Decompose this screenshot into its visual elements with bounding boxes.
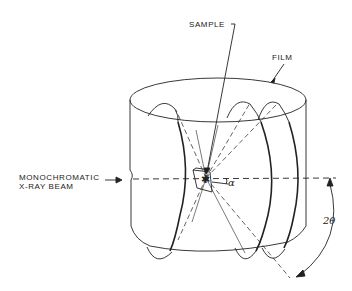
sample-label: SAMPLE <box>189 20 225 29</box>
diffraction-ring-right-bottom <box>262 248 285 258</box>
film-label: FILM <box>272 53 293 62</box>
film-right-side <box>288 100 306 242</box>
film-leader-line <box>273 64 284 80</box>
beam-label-line2: X-RAY BEAM <box>19 182 74 191</box>
two-theta-label: 2θ <box>323 215 335 226</box>
film-arrowhead <box>271 78 275 83</box>
diffraction-diagram: ✱ <box>0 0 352 291</box>
diffraction-ring-mid <box>256 122 272 251</box>
alpha-label: α <box>228 177 235 188</box>
film-left-side <box>130 100 150 246</box>
two-theta-arrowhead-bottom <box>296 270 305 277</box>
alpha-arc <box>226 178 227 184</box>
beam-label-line1: MONOCHROMATIC <box>19 173 100 182</box>
sample-star-icon: ✱ <box>201 173 210 185</box>
two-theta-arc <box>300 184 334 275</box>
beam-arrowhead <box>116 177 122 183</box>
alpha-tilt-line <box>212 182 228 184</box>
diffraction-ring-mid-top <box>227 102 261 122</box>
diffraction-cone-rays <box>176 103 290 278</box>
sample-leader-line <box>207 24 235 172</box>
diffraction-ring-right <box>284 122 298 248</box>
diffraction-ring-left <box>170 122 186 251</box>
two-theta-arrowhead-top <box>327 178 333 186</box>
